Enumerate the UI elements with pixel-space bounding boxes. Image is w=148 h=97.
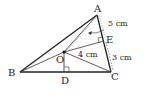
measurement-oe: 4 cm: [78, 50, 98, 59]
measurement-ec: 3 cm: [112, 53, 132, 62]
label-o: O: [56, 54, 64, 65]
label-b: B: [8, 67, 15, 78]
right-angle-marker-d: [64, 67, 69, 72]
label-d: D: [61, 75, 69, 86]
label-a: A: [93, 3, 102, 14]
label-e: E: [106, 34, 113, 45]
arrow-head-icon: [88, 31, 92, 35]
segment-oa: [64, 15, 97, 52]
measurement-ae: 5 cm: [108, 19, 128, 28]
label-c: C: [111, 71, 119, 82]
triangle-diagram: A B C O D E 5 cm 4 cm 3 cm: [0, 0, 148, 97]
